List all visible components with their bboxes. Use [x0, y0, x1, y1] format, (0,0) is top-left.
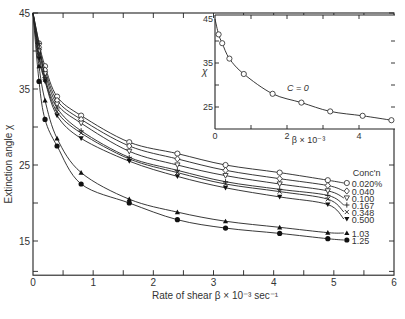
y-axis-label: Extinction angle χ	[3, 124, 14, 203]
y-tick-label: 25	[19, 160, 31, 171]
inset-y-tick-label: 45	[203, 14, 213, 24]
y-tick-label: 45	[19, 8, 31, 19]
inset-x-axis-label: β × 10⁻³	[292, 135, 325, 145]
inset-y-axis-label: χ	[201, 66, 208, 77]
y-tick-label: 15	[19, 236, 31, 247]
x-tick-label: 0	[30, 277, 36, 288]
x-tick-label: 5	[331, 277, 337, 288]
legend-title: Conc'n	[353, 168, 381, 178]
inset-annotation: C = 0	[287, 83, 309, 93]
inset-x-tick-label: 0	[212, 131, 217, 141]
x-tick-label: 4	[271, 277, 277, 288]
legend-label: 0.500	[352, 215, 375, 225]
inset-x-tick-label: 4	[356, 131, 361, 141]
inset-plot: 024253545χβ × 10⁻³C = 0	[201, 14, 395, 145]
y-tick-label: 35	[19, 84, 31, 95]
x-tick-label: 3	[211, 277, 217, 288]
x-axis-label: Rate of shear β × 10⁻³ sec⁻¹	[152, 290, 279, 301]
inset-y-tick-label: 25	[203, 102, 213, 112]
extinction-angle-chart: 012345615253545Extinction angle χRate of…	[0, 0, 405, 319]
legend-label: 1.25	[352, 236, 370, 246]
x-tick-label: 6	[391, 277, 397, 288]
inset-x-tick-label: 2	[284, 131, 289, 141]
x-tick-label: 1	[90, 277, 96, 288]
x-tick-label: 2	[151, 277, 157, 288]
